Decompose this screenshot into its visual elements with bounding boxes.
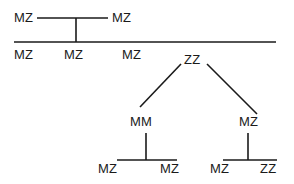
great-grandchild-1-label: MZ [98, 162, 117, 175]
child-2-label: MZ [64, 48, 83, 61]
great-grandchild-3-label: MZ [210, 162, 229, 175]
pedigree-diagram: MZ MZ MZ MZ MZ ZZ MM MZ MZ MZ MZ ZZ [0, 0, 294, 184]
parent-right-label: MZ [112, 11, 131, 24]
zz-to-mz-line [207, 64, 257, 114]
child-3-label: MZ [122, 48, 141, 61]
grandchild-right-label: MZ [239, 115, 258, 128]
connector-lines [0, 0, 294, 184]
child-4-label: ZZ [184, 53, 200, 66]
child-1-label: MZ [14, 48, 33, 61]
parent-left-label: MZ [14, 11, 33, 24]
great-grandchild-4-label: ZZ [260, 162, 276, 175]
grandchild-left-label: MM [130, 115, 152, 128]
zz-to-mm-line [140, 64, 181, 107]
great-grandchild-2-label: MZ [160, 162, 179, 175]
